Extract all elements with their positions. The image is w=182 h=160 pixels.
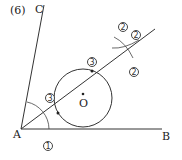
label-a: A: [13, 129, 21, 140]
label-o: O: [79, 98, 88, 109]
step-mark-1: 1: [43, 141, 53, 151]
intersection-point-1: [57, 112, 60, 115]
step-mark-3-top: 3: [87, 57, 97, 67]
step-mark-2-right: 2: [131, 30, 141, 40]
step-mark-3-left: 3: [45, 93, 55, 103]
angle-bisector: [21, 29, 155, 129]
arc-step-1: [27, 102, 49, 129]
geometry-diagram: [0, 0, 182, 160]
ray-ac: [21, 5, 44, 129]
problem-number: (6): [10, 5, 26, 16]
step-mark-2-bottom: 2: [129, 67, 139, 77]
label-c: C: [35, 4, 43, 15]
step-mark-2-top-left: 2: [118, 22, 128, 32]
intersection-point-2: [91, 70, 94, 73]
label-b: B: [162, 131, 170, 142]
center-dot: [82, 93, 85, 96]
